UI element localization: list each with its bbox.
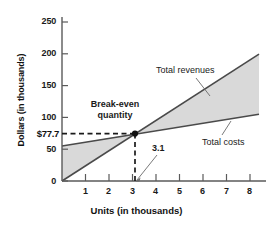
x-tick-label-4: 4: [144, 186, 167, 196]
x-axis-title: Units (in thousands): [0, 205, 273, 216]
y-tick-label-200: 200: [6, 48, 56, 58]
x-tick-marks: [86, 174, 251, 181]
breakeven-units-leader-line: [137, 155, 157, 180]
y-tick-label-50: 50: [6, 144, 56, 154]
x-tick-label-7: 7: [215, 186, 238, 196]
break-even-chart: 0 50 100 150 200 250 $77.7 1 2 3 4 5 6 7…: [0, 0, 273, 231]
breakeven-quantity-annotation: Break-even quantity: [79, 99, 151, 121]
breakeven-annotation-line2: quantity: [79, 110, 151, 121]
x-tick-label-2: 2: [97, 186, 120, 196]
breakeven-units-label: 3.1: [152, 143, 165, 154]
total-costs-leader-line: [222, 121, 231, 135]
y-tick-label-250: 250: [6, 16, 56, 26]
total-costs-label: Total costs: [202, 137, 245, 148]
x-tick-label-3: 3: [121, 186, 144, 196]
breakeven-annotation-line1: Break-even: [79, 99, 151, 110]
y-axis-title: Dollars (in thousands): [16, 35, 26, 165]
y-tick-label-0: 0: [6, 176, 56, 186]
y-tick-label-150: 150: [6, 80, 56, 90]
x-tick-label-5: 5: [168, 186, 191, 196]
x-tick-label-8: 8: [238, 186, 261, 196]
x-tick-label-6: 6: [191, 186, 214, 196]
total-revenues-label: Total revenues: [156, 65, 215, 76]
breakeven-value-label: $77.7: [6, 128, 59, 139]
x-tick-label-1: 1: [74, 186, 97, 196]
y-tick-label-100: 100: [6, 112, 56, 122]
breakeven-point-marker: [132, 131, 138, 137]
